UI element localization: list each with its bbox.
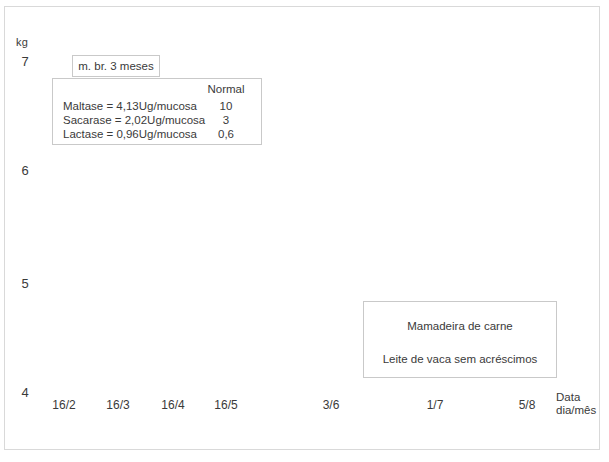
y-axis-tick-5: 5 xyxy=(14,276,36,291)
enzyme-table-body: Maltase = 4,13Ug/mucosa 10 Sacarase = 2,… xyxy=(53,100,261,142)
growth-chart-figure: kg 7 6 5 4 16/2 16/3 16/4 16/5 3/6 1/7 5… xyxy=(0,0,609,462)
enzyme-assay-table: Normal Maltase = 4,13Ug/mucosa 10 Sacara… xyxy=(52,78,262,145)
feeding-annotation-line-1: Leite de vaca sem acréscimos xyxy=(364,353,556,365)
y-axis-tick-6: 6 xyxy=(14,163,36,178)
enzyme-row-normal-2: 0,6 xyxy=(200,128,252,140)
table-row: Maltase = 4,13Ug/mucosa 10 xyxy=(53,100,261,114)
x-axis-tick-1: 16/3 xyxy=(96,398,140,412)
table-row: Sacarase = 2,02Ug/mucosa 3 xyxy=(53,114,261,128)
x-axis-tick-2: 16/4 xyxy=(151,398,195,412)
feeding-annotation-box: Mamadeira de carne Leite de vaca sem acr… xyxy=(363,301,557,378)
x-axis-tick-5: 1/7 xyxy=(413,398,457,412)
feeding-annotation-line-0: Mamadeira de carne xyxy=(364,320,556,332)
x-axis-tick-3: 16/5 xyxy=(204,398,248,412)
x-axis-tick-0: 16/2 xyxy=(42,398,86,412)
enzyme-row-normal-1: 3 xyxy=(200,114,252,126)
breast-milk-annotation-box: m. br. 3 meses xyxy=(72,55,160,77)
enzyme-row-label-1: Sacarase = 2,02Ug/mucosa xyxy=(53,114,205,126)
y-axis-tick-7: 7 xyxy=(14,54,36,69)
x-axis-tick-4: 3/6 xyxy=(309,398,353,412)
enzyme-row-label-0: Maltase = 4,13Ug/mucosa xyxy=(53,100,197,112)
x-axis-title-line-1: Data xyxy=(556,391,596,404)
enzyme-row-label-2: Lactase = 0,96Ug/mucosa xyxy=(53,128,197,140)
y-axis-unit-label: kg xyxy=(16,36,28,48)
y-axis-tick-4: 4 xyxy=(14,385,36,400)
x-axis-title: Data dia/mês xyxy=(556,391,596,417)
breast-milk-annotation-label: m. br. 3 meses xyxy=(78,60,153,72)
x-axis-title-line-2: dia/mês xyxy=(556,404,596,417)
table-row: Lactase = 0,96Ug/mucosa 0,6 xyxy=(53,128,261,142)
enzyme-table-column-header: Normal xyxy=(200,83,252,95)
enzyme-row-normal-0: 10 xyxy=(200,100,252,112)
x-axis-tick-6: 5/8 xyxy=(505,398,549,412)
